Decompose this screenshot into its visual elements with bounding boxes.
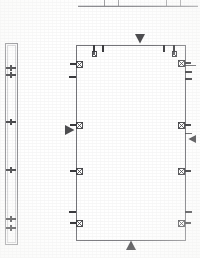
fixture-top-3 [163,45,165,52]
fixture-top-2 [102,45,104,52]
outlet-right-2-bar [185,71,192,73]
floor-plan-svg [0,0,200,258]
outlet-right-7-bar [185,222,191,224]
north-arrow-marker [135,34,145,44]
outlet-right-3-bar [185,78,192,80]
south-arrow-marker [126,241,136,251]
west-arrow-marker [65,125,75,135]
outlet-left-2-bar [69,76,76,78]
outlet-left-1-bar [70,63,76,65]
outlet-left-6-bar [70,222,76,224]
east-arrow-marker [188,135,196,143]
main-room-outline [76,45,185,240]
outlet-left-3-bar [70,124,76,126]
outlet-left-5-bar [69,211,76,213]
drawing-canvas [0,0,200,258]
outlet-right-4-bar [185,124,191,126]
outlet-right-1-bar [185,62,191,64]
outlet-left-4-bar [70,170,76,172]
outlet-right-6-bar [185,211,192,213]
outlet-right-5-bar [185,170,191,172]
